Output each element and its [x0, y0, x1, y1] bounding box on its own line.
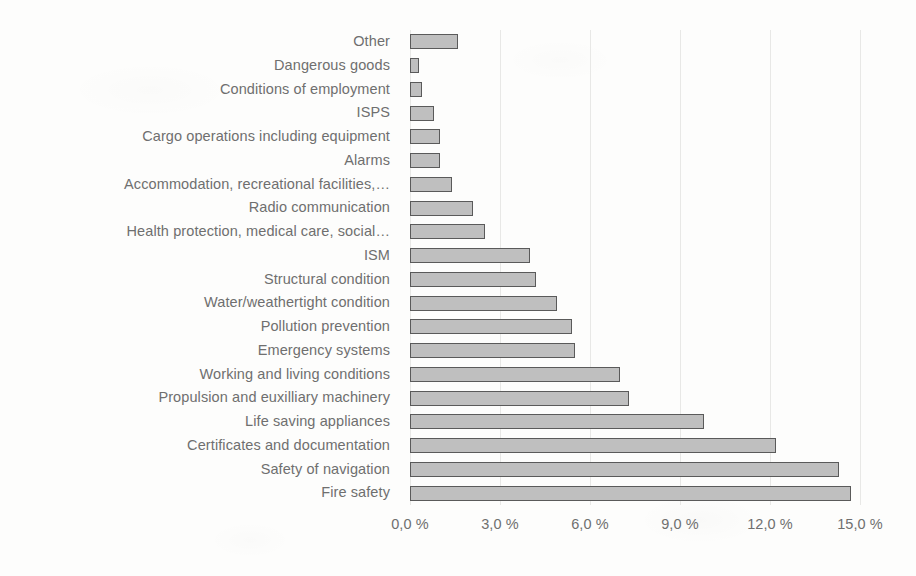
category-label: Alarms [344, 149, 390, 173]
bar [410, 272, 536, 287]
bar-row [410, 315, 860, 339]
bar-row [410, 196, 860, 220]
bar-row [410, 481, 860, 505]
bar [410, 296, 557, 311]
bar-row [410, 173, 860, 197]
bar [410, 201, 473, 216]
bar [410, 177, 452, 192]
bar-row [410, 268, 860, 292]
bar [410, 414, 704, 429]
category-label: Safety of navigation [261, 458, 390, 482]
bar-series [410, 30, 860, 505]
tick-label: 6,0 % [571, 516, 609, 532]
bar [410, 462, 839, 477]
category-label: ISM [364, 244, 390, 268]
category-label: Radio communication [249, 196, 390, 220]
bar-row [410, 30, 860, 54]
category-label: Accommodation, recreational facilities,… [124, 173, 390, 197]
category-label: Emergency systems [258, 339, 390, 363]
bar [410, 129, 440, 144]
bar [410, 319, 572, 334]
bar-row [410, 434, 860, 458]
category-label: Structural condition [264, 268, 390, 292]
bar-row [410, 149, 860, 173]
tick-label: 0,0 % [391, 516, 429, 532]
bar-row [410, 125, 860, 149]
category-label: Pollution prevention [261, 315, 390, 339]
plot-area [410, 30, 860, 505]
bar [410, 391, 629, 406]
category-label: ISPS [357, 101, 390, 125]
category-label: Health protection, medical care, social… [126, 220, 390, 244]
bar-row [410, 220, 860, 244]
category-label: Certificates and documentation [187, 434, 390, 458]
bar-row [410, 101, 860, 125]
bar [410, 224, 485, 239]
bar-row [410, 410, 860, 434]
bar-row [410, 78, 860, 102]
category-label: Working and living conditions [200, 363, 390, 387]
gridline-5 [860, 30, 861, 505]
bar [410, 343, 575, 358]
tick-label: 12,0 % [747, 516, 793, 532]
bar [410, 34, 458, 49]
category-label: Dangerous goods [274, 54, 390, 78]
bar-row [410, 386, 860, 410]
bar-row [410, 244, 860, 268]
tick-label: 15,0 % [837, 516, 883, 532]
bar [410, 106, 434, 121]
bar [410, 82, 422, 97]
category-label: Conditions of employment [220, 78, 390, 102]
bar [410, 367, 620, 382]
bar [410, 58, 419, 73]
bar [410, 248, 530, 263]
bar-row [410, 54, 860, 78]
bar-row [410, 291, 860, 315]
category-label: Propulsion and euxilliary machinery [158, 386, 390, 410]
bar-row [410, 339, 860, 363]
category-label: Fire safety [321, 481, 390, 505]
tick-label: 9,0 % [661, 516, 699, 532]
tick-label: 3,0 % [481, 516, 519, 532]
bar-row [410, 458, 860, 482]
category-label: Other [353, 30, 390, 54]
category-label: Water/weathertight condition [204, 291, 390, 315]
bar [410, 153, 440, 168]
bar [410, 438, 776, 453]
category-label: Life saving appliances [245, 410, 390, 434]
bar [410, 486, 851, 501]
bar-chart: OtherDangerous goodsConditions of employ… [0, 0, 916, 576]
bar-row [410, 363, 860, 387]
category-label: Cargo operations including equipment [142, 125, 390, 149]
